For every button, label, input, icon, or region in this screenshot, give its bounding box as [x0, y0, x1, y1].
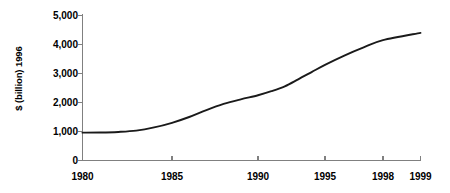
series-line: [83, 33, 421, 133]
tick-marks: [78, 16, 421, 161]
plot-area: [0, 0, 450, 193]
data-series: [83, 33, 421, 133]
line-chart: $ (billion) 1996 01,0002,0003,0004,0005,…: [0, 0, 450, 193]
axis-lines: [83, 14, 421, 161]
